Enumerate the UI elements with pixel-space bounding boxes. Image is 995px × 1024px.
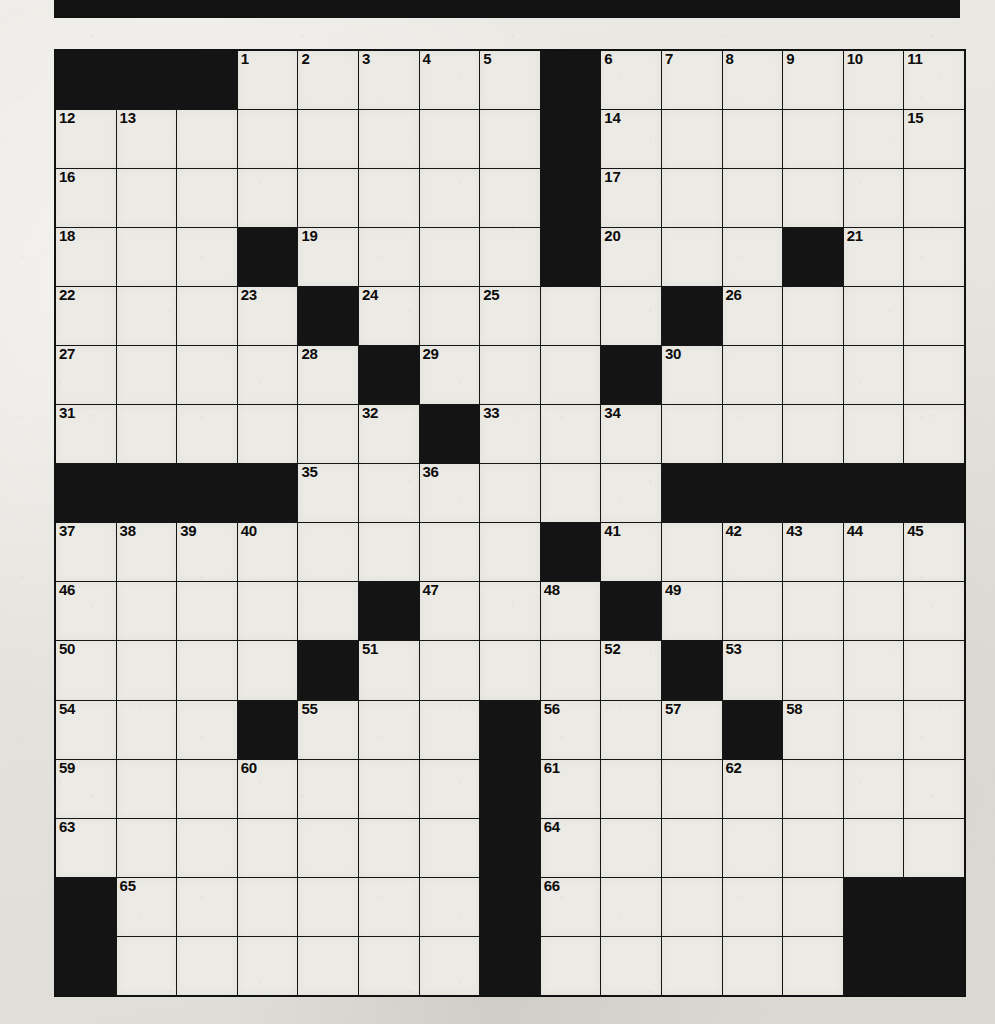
grid-letter-cell[interactable] [843, 818, 904, 877]
grid-letter-cell[interactable]: 11 [904, 50, 965, 110]
grid-letter-cell[interactable] [843, 110, 904, 169]
grid-letter-cell[interactable]: 61 [540, 759, 601, 818]
grid-letter-cell[interactable] [661, 228, 722, 287]
grid-letter-cell[interactable] [480, 169, 541, 228]
grid-letter-cell[interactable] [540, 405, 601, 464]
grid-letter-cell[interactable]: 40 [237, 523, 298, 582]
grid-letter-cell[interactable]: 44 [843, 523, 904, 582]
grid-letter-cell[interactable] [783, 818, 844, 877]
grid-letter-cell[interactable]: 52 [601, 641, 662, 700]
grid-letter-cell[interactable] [904, 700, 965, 759]
grid-letter-cell[interactable] [722, 110, 783, 169]
grid-letter-cell[interactable] [298, 110, 359, 169]
grid-letter-cell[interactable]: 36 [419, 464, 480, 523]
grid-letter-cell[interactable]: 24 [358, 287, 419, 346]
grid-letter-cell[interactable] [722, 405, 783, 464]
grid-letter-cell[interactable]: 43 [783, 523, 844, 582]
grid-letter-cell[interactable]: 27 [55, 346, 116, 405]
grid-letter-cell[interactable] [904, 228, 965, 287]
grid-letter-cell[interactable] [722, 346, 783, 405]
grid-letter-cell[interactable] [904, 818, 965, 877]
grid-letter-cell[interactable] [843, 582, 904, 641]
grid-letter-cell[interactable]: 47 [419, 582, 480, 641]
grid-letter-cell[interactable] [904, 582, 965, 641]
grid-letter-cell[interactable]: 14 [601, 110, 662, 169]
grid-letter-cell[interactable]: 30 [661, 346, 722, 405]
grid-letter-cell[interactable]: 12 [55, 110, 116, 169]
grid-letter-cell[interactable] [540, 936, 601, 996]
grid-letter-cell[interactable] [661, 877, 722, 936]
grid-letter-cell[interactable] [358, 759, 419, 818]
grid-letter-cell[interactable] [661, 169, 722, 228]
grid-letter-cell[interactable] [661, 405, 722, 464]
grid-letter-cell[interactable] [904, 759, 965, 818]
grid-letter-cell[interactable]: 26 [722, 287, 783, 346]
grid-letter-cell[interactable] [177, 759, 238, 818]
grid-letter-cell[interactable] [480, 228, 541, 287]
grid-letter-cell[interactable]: 65 [116, 877, 177, 936]
grid-letter-cell[interactable] [237, 169, 298, 228]
grid-letter-cell[interactable]: 55 [298, 700, 359, 759]
grid-letter-cell[interactable] [419, 228, 480, 287]
grid-letter-cell[interactable] [177, 936, 238, 996]
grid-letter-cell[interactable] [237, 110, 298, 169]
grid-letter-cell[interactable]: 66 [540, 877, 601, 936]
grid-letter-cell[interactable] [661, 523, 722, 582]
grid-letter-cell[interactable]: 25 [480, 287, 541, 346]
grid-letter-cell[interactable] [661, 759, 722, 818]
grid-letter-cell[interactable] [177, 818, 238, 877]
grid-letter-cell[interactable] [601, 700, 662, 759]
grid-letter-cell[interactable]: 6 [601, 50, 662, 110]
grid-letter-cell[interactable]: 9 [783, 50, 844, 110]
grid-letter-cell[interactable] [419, 641, 480, 700]
grid-letter-cell[interactable] [843, 759, 904, 818]
grid-letter-cell[interactable] [480, 582, 541, 641]
grid-letter-cell[interactable] [116, 169, 177, 228]
grid-letter-cell[interactable] [722, 228, 783, 287]
grid-letter-cell[interactable] [298, 169, 359, 228]
grid-letter-cell[interactable] [358, 936, 419, 996]
grid-letter-cell[interactable]: 21 [843, 228, 904, 287]
grid-letter-cell[interactable] [904, 641, 965, 700]
grid-letter-cell[interactable] [419, 700, 480, 759]
grid-letter-cell[interactable] [783, 169, 844, 228]
grid-letter-cell[interactable] [601, 287, 662, 346]
grid-letter-cell[interactable]: 28 [298, 346, 359, 405]
grid-letter-cell[interactable] [722, 582, 783, 641]
grid-letter-cell[interactable] [601, 877, 662, 936]
grid-letter-cell[interactable] [358, 464, 419, 523]
grid-letter-cell[interactable] [783, 582, 844, 641]
grid-letter-cell[interactable] [843, 405, 904, 464]
grid-letter-cell[interactable] [783, 405, 844, 464]
grid-letter-cell[interactable]: 20 [601, 228, 662, 287]
grid-letter-cell[interactable] [298, 818, 359, 877]
grid-letter-cell[interactable]: 38 [116, 523, 177, 582]
grid-letter-cell[interactable] [419, 110, 480, 169]
grid-letter-cell[interactable] [601, 464, 662, 523]
grid-letter-cell[interactable]: 7 [661, 50, 722, 110]
grid-letter-cell[interactable] [177, 641, 238, 700]
grid-letter-cell[interactable] [843, 700, 904, 759]
grid-letter-cell[interactable] [419, 169, 480, 228]
grid-letter-cell[interactable]: 16 [55, 169, 116, 228]
grid-letter-cell[interactable] [783, 110, 844, 169]
grid-letter-cell[interactable]: 33 [480, 405, 541, 464]
grid-letter-cell[interactable] [843, 169, 904, 228]
grid-letter-cell[interactable] [783, 641, 844, 700]
grid-letter-cell[interactable]: 17 [601, 169, 662, 228]
grid-letter-cell[interactable]: 4 [419, 50, 480, 110]
grid-letter-cell[interactable]: 13 [116, 110, 177, 169]
grid-letter-cell[interactable]: 10 [843, 50, 904, 110]
grid-letter-cell[interactable] [177, 582, 238, 641]
grid-letter-cell[interactable] [722, 877, 783, 936]
grid-letter-cell[interactable] [177, 700, 238, 759]
grid-letter-cell[interactable] [783, 346, 844, 405]
grid-letter-cell[interactable]: 62 [722, 759, 783, 818]
grid-letter-cell[interactable] [358, 877, 419, 936]
grid-letter-cell[interactable] [358, 523, 419, 582]
grid-letter-cell[interactable]: 32 [358, 405, 419, 464]
grid-letter-cell[interactable] [358, 700, 419, 759]
grid-letter-cell[interactable] [116, 700, 177, 759]
grid-letter-cell[interactable] [722, 169, 783, 228]
grid-letter-cell[interactable] [540, 287, 601, 346]
